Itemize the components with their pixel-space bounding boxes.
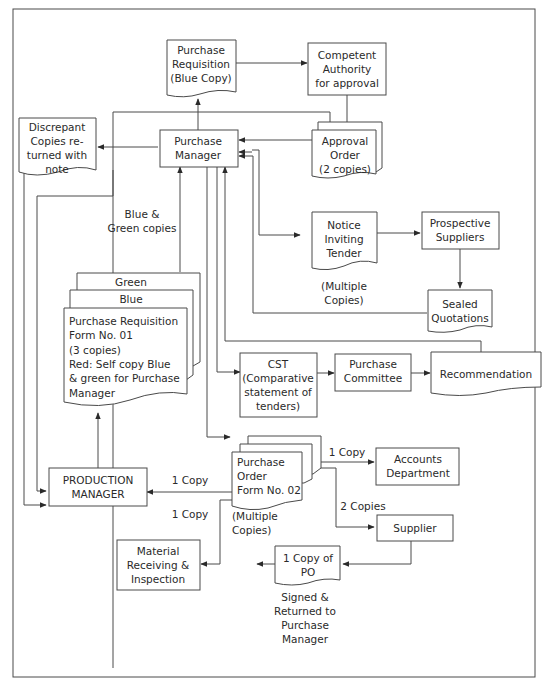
svg-text:Red: Self copy Blue: Red: Self copy Blue	[69, 358, 171, 370]
svg-text:Order: Order	[330, 149, 361, 161]
node-accounts-department: Accounts Department	[376, 448, 459, 485]
svg-text:Purchase: Purchase	[177, 44, 225, 56]
node-prospective-suppliers: Prospective Suppliers	[422, 212, 499, 249]
label-one-copy-production: 1 Copy	[172, 474, 209, 486]
purchase-procedure-flowchart: Purchase Requisition (Blue Copy) Compete…	[0, 0, 556, 690]
svg-text:Purchase: Purchase	[237, 456, 285, 468]
node-material-receiving: Material Receiving & Inspection	[117, 540, 200, 590]
svg-text:Prospective: Prospective	[430, 217, 491, 229]
label-multiple-copies-tender: (Multiple Copies)	[321, 280, 367, 306]
node-cst: CST (Comparative statement of tenders)	[240, 353, 317, 417]
label-multiple-copies-po: (Multiple Copies)	[232, 510, 278, 536]
svg-text:Copies): Copies)	[324, 294, 363, 306]
svg-text:Manager: Manager	[175, 149, 222, 161]
svg-text:Copies re-: Copies re-	[31, 135, 84, 147]
svg-text:& green for Purchase: & green for Purchase	[69, 372, 180, 384]
node-purchase-committee: Purchase Committee	[335, 354, 411, 391]
node-discrepant-copies: Discrepant Copies re- turned with note	[19, 118, 96, 175]
svg-text:turned with: turned with	[27, 149, 87, 161]
svg-text:Copies): Copies)	[232, 524, 271, 536]
svg-text:Purchase: Purchase	[281, 619, 329, 631]
svg-text:Suppliers: Suppliers	[436, 231, 485, 243]
pr-form-blue-label: Blue	[119, 293, 142, 305]
svg-text:statement of: statement of	[244, 386, 312, 398]
label-signed-returned: Signed & Returned to Purchase Manager	[274, 591, 336, 645]
node-supplier: Supplier	[377, 515, 453, 541]
svg-text:Blue &: Blue &	[125, 208, 160, 220]
node-competent-authority: Competent Authority for approval	[308, 43, 386, 95]
svg-text:PRODUCTION: PRODUCTION	[63, 474, 134, 486]
svg-text:Approval: Approval	[322, 135, 369, 147]
svg-text:Supplier: Supplier	[393, 522, 437, 534]
svg-text:Receiving &: Receiving &	[127, 559, 189, 571]
svg-text:for approval: for approval	[315, 77, 379, 89]
svg-text:Returned to: Returned to	[274, 605, 336, 617]
svg-text:Recommendation: Recommendation	[440, 368, 532, 380]
svg-text:CST: CST	[268, 358, 289, 370]
label-one-copy-accounts: 1 Copy	[329, 446, 366, 458]
node-notice-inviting-tender: Notice Inviting Tender	[312, 212, 377, 270]
pr-form-green-label: Green	[115, 276, 147, 288]
node-purchase-requisition-blue: Purchase Requisition (Blue Copy)	[167, 40, 236, 97]
svg-text:Requisition: Requisition	[172, 58, 230, 70]
svg-text:Inviting: Inviting	[324, 233, 363, 245]
node-production-manager: PRODUCTION MANAGER	[49, 468, 147, 506]
svg-text:Purchase: Purchase	[349, 358, 397, 370]
svg-text:Quotations: Quotations	[431, 312, 488, 324]
svg-text:(Comparative: (Comparative	[242, 372, 314, 384]
svg-text:Order: Order	[237, 470, 268, 482]
svg-text:Manager: Manager	[282, 633, 329, 645]
svg-text:Signed &: Signed &	[281, 591, 329, 603]
svg-text:Green copies: Green copies	[108, 222, 177, 234]
node-purchase-manager: Purchase Manager	[160, 130, 238, 167]
label-blue-green-copies: Blue & Green copies	[108, 208, 177, 234]
svg-text:Material: Material	[137, 545, 180, 557]
svg-text:(2 copies): (2 copies)	[319, 163, 371, 175]
svg-text:Department: Department	[386, 467, 450, 479]
node-recommendation: Recommendation	[431, 352, 541, 396]
svg-text:1 Copy of: 1 Copy of	[283, 552, 333, 564]
label-two-copies-supplier: 2 Copies	[340, 500, 385, 512]
svg-text:note: note	[45, 163, 69, 175]
svg-text:(Multiple: (Multiple	[232, 510, 278, 522]
svg-text:Form No. 02: Form No. 02	[237, 484, 301, 496]
svg-text:(Blue Copy): (Blue Copy)	[170, 72, 231, 84]
node-sealed-quotations: Sealed Quotations	[428, 290, 492, 332]
svg-text:Purchase: Purchase	[174, 135, 222, 147]
svg-text:MANAGER: MANAGER	[71, 488, 124, 500]
svg-text:tenders): tenders)	[256, 400, 300, 412]
svg-text:Inspection: Inspection	[131, 573, 185, 585]
node-purchase-order-02: Purchase Order Form No. 02	[232, 436, 321, 510]
svg-text:Committee: Committee	[344, 372, 402, 384]
svg-text:Discrepant: Discrepant	[29, 121, 86, 133]
svg-text:(Multiple: (Multiple	[321, 280, 367, 292]
svg-text:Notice: Notice	[327, 219, 361, 231]
svg-text:Sealed: Sealed	[442, 298, 478, 310]
node-approval-order: Approval Order (2 copies)	[312, 122, 382, 178]
node-pr-form-01: Green Blue Purchase Requisition Form No.…	[64, 273, 200, 406]
svg-text:Purchase Requisition: Purchase Requisition	[69, 315, 178, 327]
svg-text:Accounts: Accounts	[394, 453, 442, 465]
svg-text:Tender: Tender	[325, 247, 362, 259]
svg-text:(3 copies): (3 copies)	[69, 344, 121, 356]
svg-text:Manager: Manager	[69, 387, 116, 399]
svg-text:PO: PO	[301, 566, 316, 578]
svg-text:Authority: Authority	[323, 63, 372, 75]
svg-text:Competent: Competent	[318, 49, 376, 61]
svg-text:Form No. 01: Form No. 01	[69, 329, 133, 341]
label-one-copy-material: 1 Copy	[172, 508, 209, 520]
node-copy-of-po: 1 Copy of PO	[275, 546, 340, 585]
